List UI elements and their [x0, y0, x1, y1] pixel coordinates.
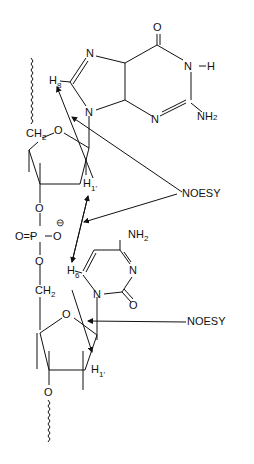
guanine-n7: N — [86, 48, 94, 59]
noesy-label-1: NOESY — [182, 188, 221, 199]
guanine-h1: H — [207, 61, 215, 72]
guanine-n3: N — [151, 114, 159, 125]
sugar1-h1prime: H1' — [83, 178, 97, 189]
backbone-wavy-bottom — [48, 400, 50, 442]
guanine-nh2: NH2 — [197, 111, 217, 122]
phosphate-o3: O — [35, 203, 44, 214]
backbone-wavy-top — [31, 58, 33, 124]
noesy-diagram: O N N H N N NH2 H8 CH2 O H1' O O=P O ⊖ O… — [0, 0, 254, 464]
sugar1-o4: O — [54, 125, 63, 136]
guanine-o6: O — [153, 22, 162, 33]
sugar2-o3: O — [44, 387, 53, 398]
negative-charge-icon: ⊖ — [56, 218, 64, 228]
h6-label: H6 — [67, 265, 79, 276]
phosphate-o-neg: O — [53, 231, 62, 242]
structure-lines — [0, 0, 254, 464]
cytosine-n3: N — [129, 265, 137, 276]
guanine-n9: N — [85, 107, 93, 118]
cytosine-o2: O — [129, 300, 138, 311]
phosphate-p-double-o: O=P — [15, 231, 37, 242]
sugar1-ch2: CH2 — [26, 128, 46, 139]
sugar2-o4: O — [62, 309, 71, 320]
phosphate-ch2: CH2 — [35, 285, 55, 296]
cytosine-nh2: NH2 — [128, 229, 148, 240]
sugar2-h1prime: H1' — [91, 364, 105, 375]
cytosine-n1: N — [93, 289, 101, 300]
guanine-n1: N — [184, 61, 192, 72]
phosphate-o5: O — [35, 256, 44, 267]
noesy-label-2: NOESY — [187, 316, 226, 327]
h8-label: H8 — [49, 75, 61, 86]
